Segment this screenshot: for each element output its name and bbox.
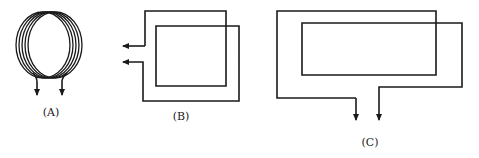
figure-c-coil	[277, 11, 462, 120]
figure-c-label: (C)	[362, 136, 379, 149]
figure-b-coil	[123, 11, 239, 101]
figure-b-label: (B)	[173, 110, 190, 123]
figure-a-label: (A)	[43, 106, 60, 119]
figure-c-lead-right	[277, 11, 462, 120]
figure-a-coil	[16, 12, 82, 95]
diagram-canvas: (A) (B) (C)	[0, 0, 479, 158]
coil-diagrams	[0, 0, 479, 158]
figure-b-lead-lower	[123, 11, 239, 101]
